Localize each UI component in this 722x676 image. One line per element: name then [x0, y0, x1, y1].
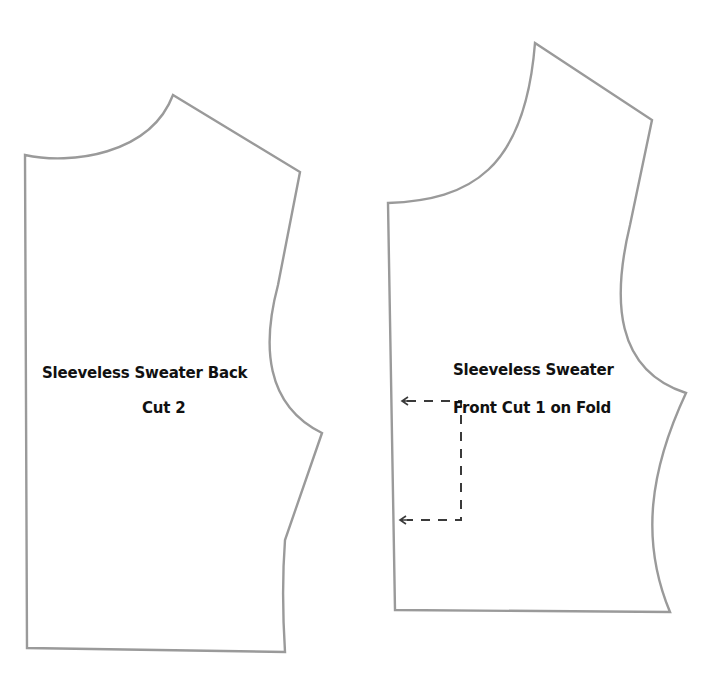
front-piece-instruction: Front Cut 1 on Fold: [453, 399, 611, 417]
front-piece-title: Sleeveless Sweater: [453, 361, 614, 379]
back-piece-instruction: Cut 2: [142, 399, 186, 417]
front-pattern-outline: [388, 43, 686, 612]
fold-line-indicator: [400, 397, 461, 524]
pattern-canvas: [0, 0, 722, 676]
back-piece-title: Sleeveless Sweater Back: [42, 364, 247, 382]
arrow-left-icon: [400, 516, 412, 524]
arrow-left-icon: [402, 397, 414, 405]
